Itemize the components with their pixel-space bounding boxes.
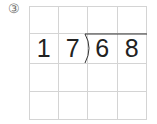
- grid-cell[interactable]: [59, 64, 89, 92]
- grid-cell[interactable]: [59, 92, 89, 120]
- grid-cell[interactable]: [29, 92, 59, 120]
- divisor-digit-cell: 1: [29, 34, 59, 64]
- grid-cell[interactable]: [118, 92, 148, 120]
- grid-cell[interactable]: [59, 6, 89, 34]
- grid-cell[interactable]: [29, 64, 59, 92]
- dividend-digit-cell: 6: [88, 34, 118, 64]
- divisor-digit-cell: 7: [59, 34, 89, 64]
- grid-cell[interactable]: [29, 6, 59, 34]
- grid-cell[interactable]: [88, 6, 118, 34]
- grid-cell[interactable]: [88, 92, 118, 120]
- grid-cell[interactable]: [118, 64, 148, 92]
- grid-cell[interactable]: [88, 64, 118, 92]
- problem-number-label: ③: [7, 2, 20, 15]
- long-division-grid: 1 7 6 8: [29, 6, 147, 120]
- dividend-digit-cell: 8: [118, 34, 148, 64]
- grid-cell[interactable]: [118, 6, 148, 34]
